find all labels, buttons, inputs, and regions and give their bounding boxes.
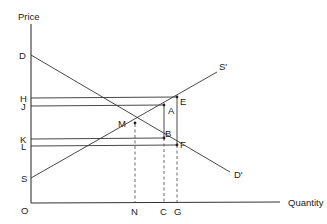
quantity-axis-label: Quantity — [288, 197, 324, 208]
label-s-prime: S' — [219, 61, 227, 72]
label-d: D — [19, 50, 26, 61]
label-n: N — [131, 206, 138, 217]
label-d-prime: D' — [234, 169, 243, 180]
price-line-l — [31, 145, 177, 146]
point-m — [134, 122, 137, 125]
label-f: F — [180, 139, 186, 150]
price-line-k — [31, 138, 164, 139]
label-a: A — [168, 105, 175, 116]
label-c: C — [160, 206, 167, 217]
label-e: E — [180, 96, 186, 107]
point-a — [163, 104, 166, 107]
label-l: L — [21, 141, 26, 152]
label-m: M — [118, 118, 126, 129]
price-line-j — [31, 105, 164, 106]
origin-label: O — [21, 205, 28, 216]
label-j: J — [21, 101, 26, 112]
label-g: G — [174, 206, 181, 217]
point-e — [176, 96, 179, 99]
price-axis-label: Price — [18, 11, 40, 22]
demand-curve — [31, 55, 230, 172]
label-b: B — [165, 128, 171, 139]
point-f — [176, 144, 179, 147]
supply-demand-diagram: Price Quantity O D D' S S' H J K L N C G… — [0, 0, 327, 224]
label-s: S — [21, 173, 27, 184]
quantity-axis — [31, 202, 280, 203]
